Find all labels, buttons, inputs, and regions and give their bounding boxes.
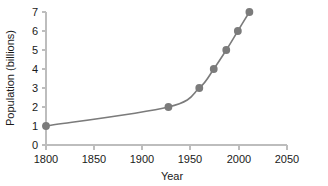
y-tick-label-4: 4: [32, 63, 38, 75]
population-line-chart: 0 1 2 3 4 5 6 7: [0, 0, 328, 186]
y-tick-label-6: 6: [32, 25, 38, 37]
data-point-1959: [195, 84, 203, 92]
y-tick-label-2: 2: [32, 101, 38, 113]
data-series-world-population: [42, 8, 253, 130]
data-point-1987: [222, 46, 230, 54]
x-tick-label-2050: 2050: [275, 153, 299, 165]
x-tick-label-2000: 2000: [227, 153, 251, 165]
y-tick-label-0: 0: [32, 139, 38, 151]
x-axis-tick-labels: 1800 1850 1900 1950 2000 2050: [34, 153, 299, 165]
chart-canvas: 0 1 2 3 4 5 6 7: [0, 0, 328, 186]
x-tick-label-1950: 1950: [178, 153, 202, 165]
y-axis-tick-labels: 0 1 2 3 4 5 6 7: [32, 6, 38, 151]
x-axis: [46, 145, 287, 150]
data-point-1999: [234, 27, 242, 35]
data-point-1927: [165, 103, 173, 111]
x-axis-title: Year: [161, 170, 184, 182]
data-point-1974: [210, 65, 218, 73]
x-tick-label-1800: 1800: [34, 153, 58, 165]
y-tick-label-1: 1: [32, 120, 38, 132]
series-line: [46, 12, 249, 126]
y-tick-label-3: 3: [32, 82, 38, 94]
y-tick-label-7: 7: [32, 6, 38, 18]
data-point-2011: [246, 8, 254, 16]
x-tick-label-1850: 1850: [82, 153, 106, 165]
y-axis-title: Population (billions): [4, 30, 16, 126]
data-point-1800: [42, 122, 50, 130]
y-tick-label-5: 5: [32, 44, 38, 56]
x-tick-label-1900: 1900: [130, 153, 154, 165]
